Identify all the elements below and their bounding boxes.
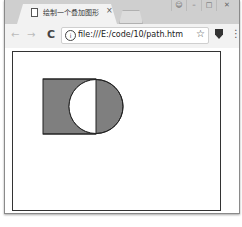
info-icon[interactable]: i xyxy=(65,30,76,41)
page-icon xyxy=(31,8,38,17)
user-icon[interactable]: ☺ xyxy=(171,0,186,11)
forward-button[interactable]: → xyxy=(27,29,35,40)
address-bar[interactable]: i file:///E:/code/10/path.htm ☆ xyxy=(61,27,209,44)
browser-window: 绘制一个叠加图形 × ☺ – □ ✕ ← → C i file:///E:/co… xyxy=(4,0,240,214)
tab-close-button[interactable]: × xyxy=(106,6,113,15)
bookmark-star-icon[interactable]: ☆ xyxy=(196,28,205,39)
url-text[interactable]: file:///E:/code/10/path.htm xyxy=(78,30,183,39)
reload-button[interactable]: C xyxy=(47,28,55,41)
back-button[interactable]: ← xyxy=(11,29,19,40)
extension-shield-icon[interactable] xyxy=(215,29,223,39)
menu-icon[interactable]: ⋮ xyxy=(231,28,241,39)
page-content xyxy=(5,48,239,213)
tab-title: 绘制一个叠加图形 xyxy=(43,7,99,17)
toolbar: ← → C i file:///E:/code/10/path.htm ☆ ⋮ xyxy=(5,24,239,48)
minimize-button[interactable]: – xyxy=(186,0,201,11)
drawing-canvas xyxy=(12,51,221,211)
overlay-shape xyxy=(13,52,220,210)
maximize-button[interactable]: □ xyxy=(201,0,216,11)
tab-active[interactable]: 绘制一个叠加图形 × xyxy=(17,4,117,24)
new-tab-button[interactable] xyxy=(119,10,143,24)
title-bar: 绘制一个叠加图形 × ☺ – □ ✕ xyxy=(5,0,239,24)
close-button[interactable]: ✕ xyxy=(216,0,237,11)
window-controls: ☺ – □ ✕ xyxy=(171,0,237,11)
